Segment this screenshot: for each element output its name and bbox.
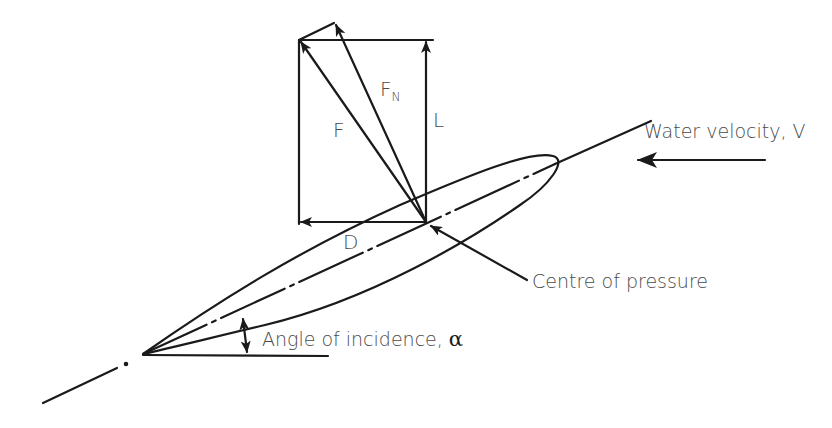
lift-label: L [433, 108, 444, 132]
drag-label: D [343, 230, 358, 254]
reference-horizontal-line [143, 355, 328, 356]
centre-of-pressure-pointer [431, 226, 527, 280]
chord-line-lower [43, 368, 117, 403]
chord-line-dashed [143, 164, 555, 354]
angle-of-incidence-label: Angle of incidence, α [262, 327, 463, 351]
diagram-svg [0, 0, 832, 428]
resultant-force-arrow [301, 42, 426, 222]
force-connector-line [299, 23, 334, 40]
centre-of-pressure-label: Centre of pressure [532, 270, 708, 292]
water-velocity-label: Water velocity, V [644, 120, 806, 142]
normal-force-subscript: N [392, 90, 401, 104]
angle-arrow [243, 319, 247, 352]
angle-of-incidence-text: Angle of incidence, [262, 328, 449, 350]
normal-force-main: F [380, 77, 392, 101]
normal-force-label: FN [380, 77, 401, 101]
resultant-force-label: F [333, 118, 345, 142]
hydrofoil-force-diagram: F FN L D Water velocity, V Centre of pre… [0, 0, 832, 428]
normal-force-arrow [336, 25, 426, 222]
alpha-symbol: α [449, 327, 463, 351]
chord-line-upper [555, 121, 651, 164]
